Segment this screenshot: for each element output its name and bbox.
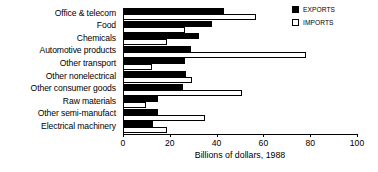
bar-chart: Office & telecomFoodChemicalsAutomotive … xyxy=(0,0,378,172)
bar-imports xyxy=(123,27,185,33)
bar-imports xyxy=(123,39,167,45)
x-axis-tick-label: 100 xyxy=(342,138,372,148)
bar-group xyxy=(123,109,357,122)
bar-group xyxy=(123,33,357,46)
filled-square-icon xyxy=(292,6,299,13)
x-axis-tick xyxy=(357,134,358,137)
x-axis-tick-label: 40 xyxy=(202,138,232,148)
category-label: Electrical machinery xyxy=(0,122,116,131)
category-label: Other nonelectrical xyxy=(0,72,116,81)
bar-group xyxy=(123,84,357,97)
bar-imports xyxy=(123,14,256,20)
bar-group xyxy=(123,58,357,71)
legend-item: IMPORTS xyxy=(292,18,372,29)
bar-group xyxy=(123,96,357,109)
bar-imports xyxy=(123,64,152,70)
x-axis-tick xyxy=(170,134,171,137)
bar-imports xyxy=(123,102,146,108)
category-label: Food xyxy=(0,21,116,30)
legend-label: IMPORTS xyxy=(303,18,334,27)
bar-imports xyxy=(123,127,167,133)
category-label: Raw materials xyxy=(0,97,116,106)
x-axis-tick-label: 80 xyxy=(295,138,325,148)
category-label: Chemicals xyxy=(0,34,116,43)
x-axis-tick-label: 60 xyxy=(248,138,278,148)
x-axis-tick xyxy=(263,134,264,137)
category-label: Other consumer goods xyxy=(0,84,116,93)
bar-imports xyxy=(123,115,205,121)
bar-group xyxy=(123,121,357,134)
bar-imports xyxy=(123,90,242,96)
category-label: Other transport xyxy=(0,59,116,68)
bar-imports xyxy=(123,77,192,83)
bar-group xyxy=(123,71,357,84)
category-label: Office & telecom xyxy=(0,9,116,18)
bar-group xyxy=(123,46,357,59)
x-axis-line xyxy=(123,134,357,135)
legend-item: EXPORTS xyxy=(292,5,372,16)
category-label: Other semi-manufact xyxy=(0,109,116,118)
y-axis-line xyxy=(123,8,124,134)
bar-imports xyxy=(123,52,306,58)
x-axis-title: Billions of dollars, 1988 xyxy=(123,150,357,161)
x-axis-tick-label: 20 xyxy=(155,138,185,148)
hollow-square-icon xyxy=(292,19,299,26)
category-axis-labels: Office & telecomFoodChemicalsAutomotive … xyxy=(0,8,119,134)
x-axis-tick-label: 0 xyxy=(108,138,138,148)
x-axis-tick xyxy=(310,134,311,137)
category-label: Automotive products xyxy=(0,46,116,55)
chart-legend: EXPORTSIMPORTS xyxy=(292,5,372,31)
legend-label: EXPORTS xyxy=(303,5,335,14)
x-axis-tick xyxy=(217,134,218,137)
x-axis-tick xyxy=(123,134,124,137)
